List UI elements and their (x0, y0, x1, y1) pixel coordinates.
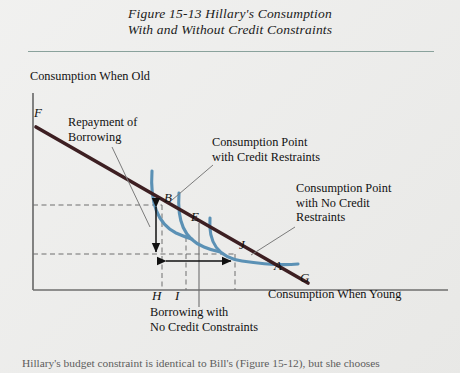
point-label-h: H (152, 289, 161, 304)
indifference-curves (152, 171, 298, 265)
annotation-credit-restraints-line-2: with Credit Restraints (212, 150, 320, 165)
annotation-borrowing-line-1: Borrowing with (150, 305, 258, 320)
annotation-borrowing-line-2: No Credit Constraints (150, 320, 258, 335)
chart-area: Consumption When Old Consumption When Yo… (0, 55, 460, 345)
annotation-no-credit-line-1: Consumption Point (296, 181, 391, 196)
annotation-credit-restraints: Consumption Point with Credit Restraints (212, 135, 320, 164)
figure-title: Figure 15-13 Hillary's Consumption With … (0, 6, 460, 38)
point-label-f: F (34, 106, 42, 121)
leader-credit-restraints (172, 165, 213, 200)
leader-no-credit (251, 227, 295, 255)
annotation-repayment-line-2: Borrowing (68, 130, 137, 145)
annotation-borrowing: Borrowing with No Credit Constraints (150, 305, 258, 334)
point-label-i: I (175, 289, 179, 304)
point-label-b: B (164, 191, 172, 206)
title-divider (28, 51, 434, 52)
annotation-credit-restraints-line-1: Consumption Point (212, 135, 320, 150)
annotation-no-credit-restraints: Consumption Point with No Credit Restrai… (296, 181, 391, 225)
point-label-j: J (239, 238, 245, 253)
indifference-curve-J (210, 218, 298, 265)
point-label-e: E (191, 210, 199, 225)
y-axis-title: Consumption When Old (30, 69, 150, 84)
point-label-a: A (274, 259, 282, 274)
figure-caption: Hillary's budget constraint is identical… (22, 356, 438, 370)
annotation-no-credit-line-3: Restraints (296, 210, 391, 225)
annotation-repayment: Repayment of Borrowing (68, 115, 137, 144)
figure-title-line-1: Figure 15-13 Hillary's Consumption (128, 6, 332, 21)
point-label-g: G (300, 271, 309, 286)
leader-repayment (112, 147, 150, 227)
figure-title-line-2: With and Without Credit Constraints (0, 22, 460, 38)
x-axis-title: Consumption When Young (268, 287, 401, 302)
annotation-repayment-line-1: Repayment of (68, 115, 137, 130)
annotation-no-credit-line-2: with No Credit (296, 196, 391, 211)
